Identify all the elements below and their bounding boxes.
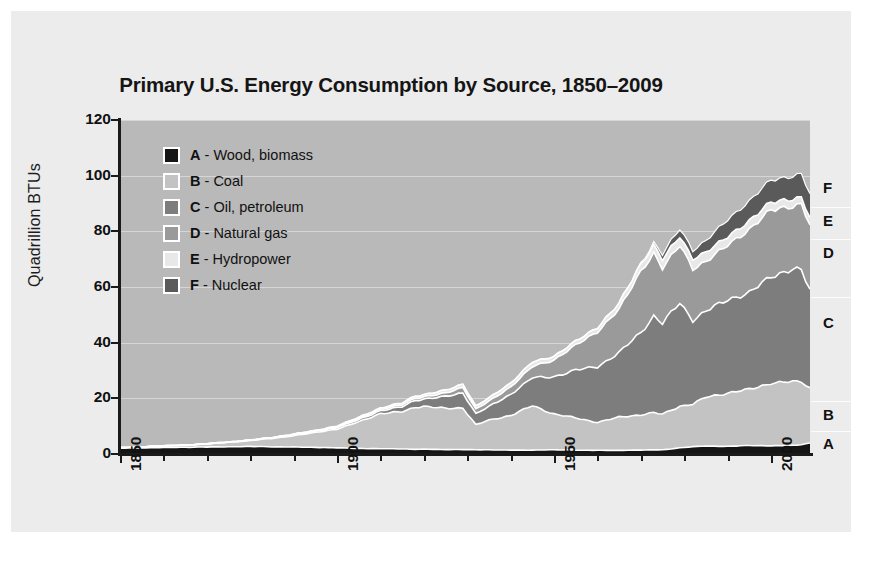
y-axis-tick-label: 60 [51, 277, 111, 295]
legend-label: D - Natural gas [190, 225, 288, 241]
legend-key: E [190, 251, 200, 267]
x-axis-minor-tick [597, 455, 599, 461]
x-axis-tick [337, 455, 339, 463]
legend-name: Oil, petroleum [213, 199, 303, 215]
x-axis-tick [120, 455, 122, 463]
legend-label: A - Wood, biomass [190, 147, 313, 163]
legend-label: F - Nuclear [190, 277, 262, 293]
legend-swatch-icon [163, 199, 180, 216]
x-axis-tick [554, 455, 556, 463]
y-axis-tick [111, 342, 119, 344]
legend-label: C - Oil, petroleum [190, 199, 304, 215]
y-axis-tick [111, 119, 119, 121]
legend-label: E - Hydropower [190, 251, 291, 267]
y-axis-tick-label: 40 [51, 333, 111, 351]
legend-key: B [190, 173, 200, 189]
legend-separator: - [200, 199, 213, 215]
legend-key: A [190, 147, 200, 163]
band-divider [811, 207, 853, 208]
x-axis-minor-tick [467, 455, 469, 461]
x-axis-minor-tick [511, 455, 513, 461]
legend-swatch-icon [163, 147, 180, 164]
band-label-f: F [823, 179, 832, 196]
y-axis-tick-label: 0 [51, 444, 111, 462]
legend-separator: - [199, 277, 212, 293]
legend-item-c: C - Oil, petroleum [163, 197, 313, 217]
legend-item-f: F - Nuclear [163, 275, 313, 295]
x-axis-tick [771, 455, 773, 463]
x-axis-minor-tick [250, 455, 252, 461]
y-axis-tick [111, 286, 119, 288]
y-axis-tick-label: 120 [51, 110, 111, 128]
x-axis-minor-tick [294, 455, 296, 461]
legend-item-d: D - Natural gas [163, 223, 313, 243]
y-axis-tick-label: 80 [51, 221, 111, 239]
band-label-a: A [823, 435, 834, 452]
x-axis-minor-tick [424, 455, 426, 461]
x-axis-tick-label: 1850 [127, 437, 145, 471]
legend-name: Coal [213, 173, 243, 189]
legend-key: C [190, 199, 200, 215]
x-axis-minor-tick [684, 455, 686, 461]
legend-name: Nuclear [212, 277, 262, 293]
x-axis-minor-tick [207, 455, 209, 461]
x-axis-tick-label: 2000 [778, 437, 796, 471]
y-axis-tick [111, 230, 119, 232]
y-axis-title: Quadrillion BTUs [26, 105, 44, 345]
x-axis-minor-tick [728, 455, 730, 461]
band-divider [811, 239, 853, 240]
y-axis-tick [111, 453, 119, 455]
band-label-c: C [823, 314, 834, 331]
legend-key: D [190, 225, 200, 241]
legend-item-e: E - Hydropower [163, 249, 313, 269]
band-divider [811, 297, 853, 298]
y-axis-tick-label: 20 [51, 388, 111, 406]
legend-label: B - Coal [190, 173, 243, 189]
legend: A - Wood, biomassB - CoalC - Oil, petrol… [163, 145, 313, 295]
legend-separator: - [200, 147, 213, 163]
band-divider [811, 431, 853, 432]
legend-swatch-icon [163, 173, 180, 190]
legend-separator: - [200, 251, 213, 267]
y-axis-tick-label: 100 [51, 166, 111, 184]
x-axis-tick-label: 1950 [561, 437, 579, 471]
y-axis-tick-labels: 020406080100120 [43, 11, 111, 532]
band-label-e: E [823, 212, 833, 229]
legend-key: F [190, 277, 199, 293]
legend-swatch-icon [163, 251, 180, 268]
legend-separator: - [200, 225, 213, 241]
band-divider [811, 401, 853, 402]
legend-item-a: A - Wood, biomass [163, 145, 313, 165]
x-axis-minor-tick [163, 455, 165, 461]
x-axis-minor-tick [380, 455, 382, 461]
legend-swatch-icon [163, 225, 180, 242]
x-axis-minor-tick [641, 455, 643, 461]
legend-swatch-icon [163, 277, 180, 294]
legend-name: Hydropower [213, 251, 291, 267]
y-axis-tick [111, 397, 119, 399]
page-title: Primary U.S. Energy Consumption by Sourc… [11, 73, 771, 97]
legend-separator: - [200, 173, 213, 189]
y-axis-tick [111, 175, 119, 177]
x-axis-tick-label: 1900 [344, 437, 362, 471]
figure-panel: Primary U.S. Energy Consumption by Sourc… [11, 11, 851, 532]
legend-name: Wood, biomass [213, 147, 313, 163]
legend-item-b: B - Coal [163, 171, 313, 191]
band-label-d: D [823, 244, 834, 261]
band-label-b: B [823, 406, 834, 423]
legend-name: Natural gas [213, 225, 287, 241]
x-axis-line [118, 453, 813, 456]
